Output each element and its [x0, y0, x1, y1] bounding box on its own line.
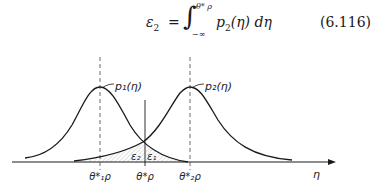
integral-lower-limit: −∞: [192, 30, 205, 39]
equation-equals: =: [168, 14, 180, 30]
epsilon2-label: ε₂: [131, 151, 140, 162]
integral-upper-limit: θ* ρ: [196, 2, 212, 11]
tick-label-threshold: θ*ρ: [136, 171, 154, 182]
integrand: p2(η) dη: [216, 14, 272, 33]
curve1-label: p₁(η): [114, 80, 142, 93]
probability-density-figure: p₁(η) p₂(η) ε₂ ε₁ θ*₁ρ θ*ρ θ*₂ρ η: [0, 40, 384, 186]
x-axis-arrow-icon: [328, 159, 336, 165]
tick-label-theta1: θ*₁ρ: [89, 171, 111, 182]
tick-label-theta2: θ*₂ρ: [179, 171, 201, 182]
curve2-label: p₂(η): [204, 80, 232, 93]
x-axis-label: η: [313, 168, 320, 181]
integral-sign: ∫: [183, 3, 197, 29]
equation-lhs: ε2: [146, 14, 159, 33]
epsilon1-label: ε₁: [147, 151, 156, 162]
curve-p1: [25, 87, 188, 162]
curve-p2: [74, 87, 292, 161]
equation-number: (6.116): [320, 14, 371, 30]
equation: ε2 = ∫ θ* ρ −∞ p2(η) dη (6.116): [0, 0, 384, 40]
